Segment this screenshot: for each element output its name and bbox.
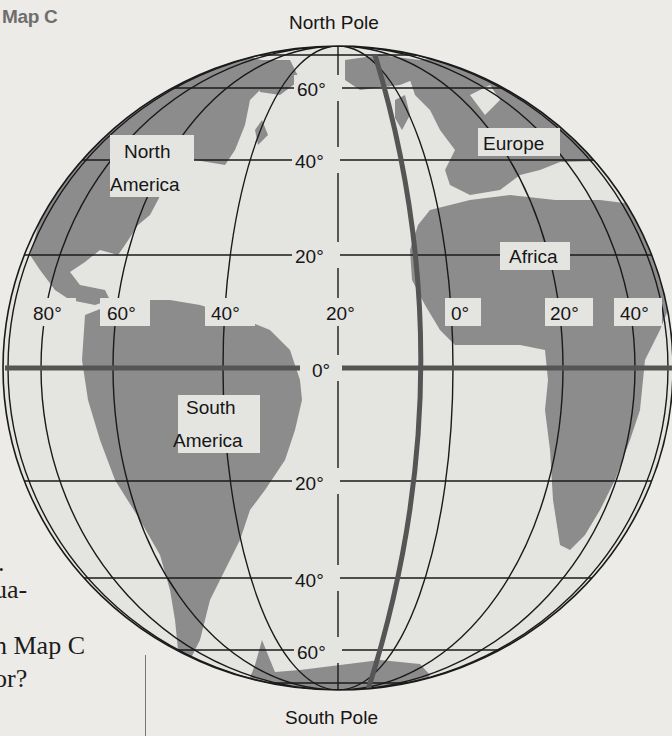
latitude-label: 60°	[297, 642, 326, 663]
longitude-label: 20°	[326, 303, 355, 324]
latitude-label: 40°	[295, 151, 324, 172]
latitude-label: 20°	[295, 246, 324, 267]
longitude-label: 60°	[107, 303, 136, 324]
longitude-label: 40°	[211, 303, 240, 324]
longitude-label: 0°	[451, 303, 469, 324]
latitude-label: 60°	[297, 79, 326, 100]
continent-label-north-america: North	[124, 141, 170, 162]
continent-label-africa: Africa	[509, 246, 558, 267]
globe-map: 60° 40° 20° 0° 20° 40° 60° 80° 60° 40° 2…	[0, 0, 672, 736]
latitude-label: 40°	[295, 570, 324, 591]
continent-label-north-america: America	[110, 174, 180, 195]
continent-label-south-america: South	[186, 397, 236, 418]
latitude-label: 0°	[312, 360, 330, 381]
continent-label-europe: Europe	[483, 133, 544, 154]
longitude-label: 20°	[550, 303, 579, 324]
latitude-label: 20°	[295, 473, 324, 494]
longitude-label: 80°	[33, 303, 62, 324]
longitude-label: 40°	[620, 303, 649, 324]
continent-label-south-america: America	[173, 430, 243, 451]
